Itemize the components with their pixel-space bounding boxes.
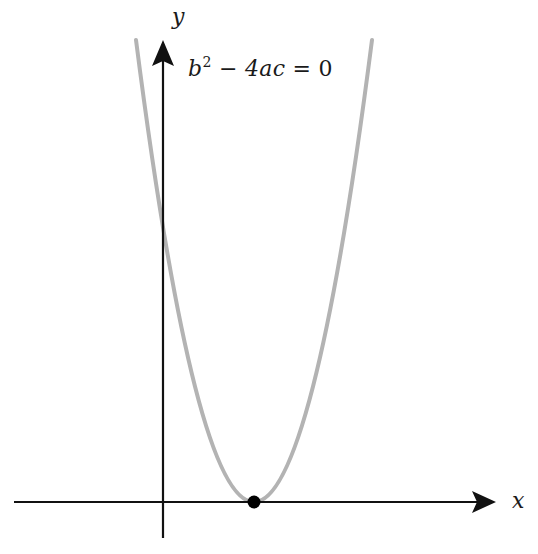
- equation-minus: −: [212, 56, 245, 81]
- x-axis-label: x: [512, 488, 524, 513]
- discriminant-zero-parabola-diagram: y x b2 − 4ac = 0: [0, 0, 538, 554]
- y-axis-label: y: [172, 4, 184, 29]
- discriminant-equation: b2 − 4ac = 0: [188, 54, 333, 81]
- equation-equals-zero: = 0: [285, 56, 333, 81]
- equation-b: b: [188, 56, 202, 81]
- plot-canvas: [0, 0, 538, 554]
- equation-4ac: 4ac: [245, 56, 285, 81]
- equation-exponent: 2: [202, 54, 211, 70]
- parabola-curve: [136, 40, 372, 502]
- vertex-point: [248, 496, 261, 509]
